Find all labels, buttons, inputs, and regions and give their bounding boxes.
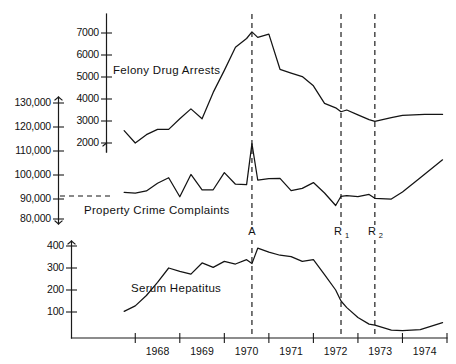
chart-svg: 7000 6000 5000 4000 3000 2000 130,000 12… [0, 0, 456, 364]
property-ticklabel-110000: 110,000 [15, 144, 51, 156]
year-label-1971: 1971 [279, 345, 303, 357]
year-label-1968: 1968 [146, 345, 170, 357]
event-label-A: A [248, 225, 256, 237]
property-ticklabel-100000: 100,000 [14, 168, 51, 180]
felony-ticklabel-7000: 7000 [76, 26, 99, 38]
felony-ticklabel-6000: 6000 [76, 48, 99, 60]
property-ticklabel-130000: 130,000 [14, 96, 51, 108]
svg-text:R: R [368, 225, 376, 237]
chart-figure: 7000 6000 5000 4000 3000 2000 130,000 12… [0, 0, 456, 364]
property-ticklabel-120000: 120,000 [14, 120, 51, 132]
hepatitus-ticklabel-200: 200 [47, 283, 64, 295]
hepatitus-ticklabel-300: 300 [47, 261, 64, 273]
felony-axis-break [103, 143, 107, 152]
year-label-1974: 1974 [413, 345, 437, 357]
property-crime-tick-labels: 130,000 120,000 110,000 100,000 90,000 8… [14, 96, 51, 224]
svg-text:1: 1 [345, 231, 349, 240]
year-label-1973: 1973 [368, 345, 392, 357]
year-label-1970: 1970 [235, 345, 259, 357]
year-label-1969: 1969 [190, 345, 214, 357]
felony-drug-arrests-label: Felony Drug Arrests [113, 64, 220, 76]
felony-ticklabel-4000: 4000 [76, 92, 99, 104]
event-marker-lines [245, 14, 382, 338]
property-crime-complaints-line [124, 144, 442, 206]
property-ticklabel-80000: 80,000 [20, 212, 51, 224]
year-label-1972: 1972 [324, 345, 348, 357]
felony-ticklabel-2000: 2000 [76, 136, 99, 148]
x-axis-year-labels: 1968196919701971197219731974 [146, 345, 437, 357]
felony-ticklabel-3000: 3000 [76, 114, 99, 126]
serum-hepatitus-axis [68, 241, 447, 338]
felony-drug-arrests-axis [103, 14, 107, 152]
svg-text:R: R [334, 225, 342, 237]
felony-drug-arrests-line [124, 32, 442, 143]
serum-hepatitus-tick-labels: 400 300 200 100 [47, 239, 64, 317]
property-ticklabel-90000: 90,000 [20, 192, 51, 204]
event-marker-labels: AR1R2 [248, 225, 383, 240]
felony-drug-arrests-tick-labels: 7000 6000 5000 4000 3000 2000 [76, 26, 99, 148]
svg-text:A: A [248, 225, 256, 237]
felony-ticklabel-5000: 5000 [76, 70, 99, 82]
hepatitus-ticklabel-400: 400 [47, 239, 64, 251]
property-crime-complaints-label: Property Crime Complaints [84, 204, 230, 216]
svg-text:2: 2 [379, 231, 383, 240]
property-crime-axis [55, 97, 62, 224]
hepatitus-ticklabel-100: 100 [47, 305, 64, 317]
serum-hepatitus-label: Serum Hepatitus [131, 282, 221, 294]
